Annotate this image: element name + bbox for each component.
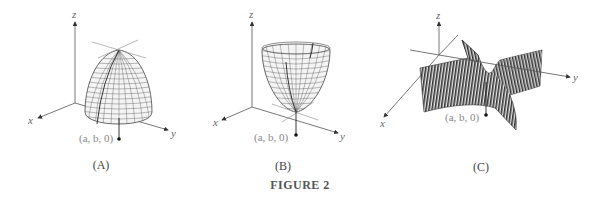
- saddle-plot: z x y (a, b, 0): [380, 0, 600, 175]
- critical-point-marker: [294, 133, 298, 137]
- y-axis-label: y: [170, 127, 176, 139]
- x-axis: [38, 103, 75, 118]
- z-axis-label: z: [435, 9, 441, 21]
- panel-a: z x y (a, b, 0): [0, 0, 200, 175]
- panel-a-caption: (A): [81, 158, 121, 173]
- point-label: (a, b, 0): [79, 132, 114, 145]
- panel-c: z x y (a, b, 0): [380, 0, 600, 175]
- panel-c-caption: (C): [461, 160, 501, 175]
- x-axis: [222, 107, 252, 120]
- point-label: (a, b, 0): [254, 131, 289, 144]
- y-axis-label: y: [572, 71, 578, 83]
- paraboloid-max-plot: z x y (a, b, 0): [0, 0, 200, 175]
- y-axis-label: y: [339, 130, 345, 142]
- figure-caption: FIGURE 2: [0, 178, 600, 193]
- panel-b: z x y (a, b, 0): [190, 0, 390, 175]
- panel-b-caption: (B): [263, 159, 303, 174]
- z-axis-label: z: [71, 8, 77, 20]
- x-axis-label: x: [212, 116, 218, 128]
- critical-point-marker: [484, 113, 488, 117]
- point-label: (a, b, 0): [445, 111, 480, 124]
- z-axis-label: z: [248, 8, 254, 20]
- paraboloid-min-plot: z x y (a, b, 0): [190, 0, 390, 175]
- critical-point-marker: [117, 137, 121, 141]
- x-axis-label: x: [27, 114, 33, 126]
- x-axis-label: x: [380, 117, 385, 129]
